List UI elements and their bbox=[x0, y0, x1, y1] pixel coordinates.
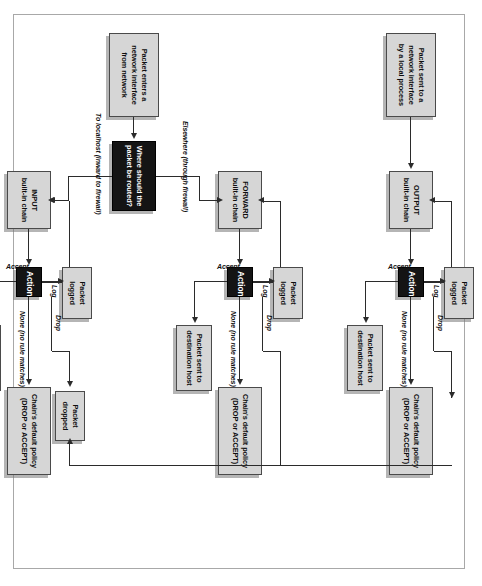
route-localhost-line2: (inward to firewall) bbox=[95, 155, 102, 215]
edge-input-source-to-decision bbox=[133, 117, 134, 133]
forward-action-label: Action bbox=[234, 271, 245, 293]
packet-dropped-line1: Packet bbox=[70, 395, 80, 437]
input-source-line2: network interface bbox=[129, 37, 139, 113]
node-forward-dest: Packet sent to destination host bbox=[176, 325, 212, 391]
arrowhead-output-drop bbox=[449, 392, 455, 398]
edge-forward-chain-to-action bbox=[239, 229, 240, 259]
output-none-line3: matches) bbox=[401, 357, 408, 387]
output-logged-line1: Packet bbox=[459, 271, 469, 315]
arrowhead-output-log bbox=[429, 197, 435, 203]
arrowhead-route-elsewhere bbox=[217, 197, 223, 203]
node-output-logged: Packet logged bbox=[444, 267, 474, 319]
label-output-none: None (no rule matches) bbox=[399, 311, 408, 387]
forward-dest-line2: destination host bbox=[184, 329, 194, 387]
output-chain-line2: built-in chain bbox=[401, 175, 411, 225]
label-forward-accept: Accept bbox=[217, 263, 240, 272]
output-source-line3: by a local process bbox=[396, 37, 406, 113]
label-route-localhost: To localhost (inward to firewall) bbox=[93, 113, 102, 214]
node-input-local: Packet sent to local process bbox=[0, 325, 1, 391]
output-action-label: Action bbox=[405, 271, 416, 293]
figure-frame: Packet sent to a network interface by a … bbox=[13, 14, 465, 569]
route-elsewhere-line2: (through firewall) bbox=[182, 157, 189, 212]
output-dest-line1: Packet sent to bbox=[365, 329, 375, 387]
label-output-accept: Accept bbox=[388, 263, 411, 272]
forward-chain-line2: built-in chain bbox=[230, 175, 240, 225]
arrowhead-forward-none bbox=[238, 379, 244, 385]
node-forward-logged: Packet logged bbox=[273, 267, 303, 319]
input-none-line3: matches) bbox=[19, 357, 26, 387]
edge-route-localhost-h bbox=[68, 176, 69, 200]
input-none-line2: (no rule bbox=[19, 330, 26, 355]
label-output-drop: Drop bbox=[435, 315, 444, 331]
node-output-chain: OUTPUT built-in chain bbox=[389, 171, 433, 229]
label-input-none: None (no rule matches) bbox=[17, 311, 26, 387]
edge-forward-drop-h2 bbox=[280, 351, 281, 399]
input-logged-line1: Packet bbox=[77, 271, 87, 315]
input-policy-line1: Chain's default policy bbox=[29, 391, 39, 471]
edge-input-drop-h2 bbox=[69, 351, 70, 383]
edge-output-drop-h1 bbox=[433, 297, 434, 351]
node-input-logged: Packet logged bbox=[62, 267, 92, 319]
label-forward-log: Log bbox=[260, 285, 269, 298]
label-forward-drop: Drop bbox=[264, 315, 273, 331]
arrowhead-output-logged bbox=[440, 278, 446, 284]
label-input-accept: Accept bbox=[6, 263, 29, 272]
edge-route-localhost-v bbox=[68, 176, 112, 177]
edge-output-none bbox=[410, 297, 411, 379]
arrowhead-forward-logged bbox=[269, 278, 275, 284]
input-source-line3: from network bbox=[119, 37, 129, 113]
flowchart-canvas: Packet sent to a network interface by a … bbox=[14, 15, 466, 570]
edge-forward-accept-h bbox=[194, 281, 195, 317]
arrowhead-input-log bbox=[49, 197, 55, 203]
node-forward-chain: FORWARD built-in chain bbox=[218, 171, 262, 229]
edge-input-chain-to-action bbox=[28, 229, 29, 259]
node-input-policy: Chain's default policy (DROP or ACCEPT) bbox=[7, 387, 51, 475]
edge-drop-spine bbox=[70, 465, 452, 466]
input-chain-line2: built-in chain bbox=[19, 175, 29, 225]
edge-input-none bbox=[28, 297, 29, 379]
forward-chain-line1: FORWARD bbox=[240, 175, 250, 225]
edge-route-elsewhere-v bbox=[156, 176, 200, 177]
arrowhead-input-drop bbox=[67, 381, 73, 387]
arrowhead-forward-accept bbox=[192, 317, 198, 323]
figure-page: Packet sent to a network interface by a … bbox=[0, 0, 482, 586]
forward-none-line1: None bbox=[230, 311, 237, 328]
route-localhost-line1: To localhost bbox=[95, 113, 102, 153]
edge-output-drop-h2 bbox=[451, 351, 452, 398]
arrowhead-output-none bbox=[409, 379, 415, 385]
input-chain-line1: INPUT bbox=[29, 175, 39, 225]
edge-route-elsewhere-up bbox=[199, 200, 218, 201]
output-source-line1: Packet sent to a bbox=[416, 37, 426, 113]
packet-dropped-line2: dropped bbox=[60, 395, 70, 437]
forward-policy-line2: (DROP or ACCEPT) bbox=[230, 391, 240, 471]
edge-output-accept-v bbox=[365, 281, 398, 282]
edge-forward-drop-h1 bbox=[262, 297, 263, 351]
input-action-label: Action bbox=[23, 271, 34, 293]
forward-logged-line1: Packet bbox=[288, 271, 298, 315]
output-policy-line1: Chain's default policy bbox=[411, 391, 421, 471]
edge-route-localhost-down bbox=[53, 200, 69, 201]
input-none-line1: None bbox=[19, 311, 26, 328]
output-logged-line2: logged bbox=[449, 271, 459, 315]
label-input-drop: Drop bbox=[53, 315, 62, 331]
forward-dest-line1: Packet sent to bbox=[194, 329, 204, 387]
input-policy-line2: (DROP or ACCEPT) bbox=[19, 391, 29, 471]
node-input-chain: INPUT built-in chain bbox=[7, 171, 51, 229]
edge-output-source-to-chain bbox=[410, 117, 411, 163]
edge-forward-accept-v bbox=[194, 281, 227, 282]
input-logged-line2: logged bbox=[67, 271, 77, 315]
edge-forward-none bbox=[239, 297, 240, 379]
edge-route-elsewhere-h bbox=[199, 176, 200, 200]
arrowhead-drop-spine bbox=[67, 438, 73, 444]
forward-none-line2: (no rule bbox=[230, 330, 237, 355]
output-chain-line1: OUTPUT bbox=[411, 175, 421, 225]
forward-policy-line1: Chain's default policy bbox=[240, 391, 250, 471]
edge-input-drop-h1 bbox=[51, 297, 52, 351]
node-output-policy: Chain's default policy (DROP or ACCEPT) bbox=[389, 387, 433, 475]
route-elsewhere-line1: Elsewhere bbox=[182, 121, 189, 155]
node-output-dest: Packet sent to destination host bbox=[347, 325, 383, 391]
node-output-source: Packet sent to a network interface by a … bbox=[386, 33, 436, 117]
arrowhead-input-source-to-decision bbox=[132, 133, 138, 139]
arrowhead-forward-log bbox=[258, 197, 264, 203]
arrowhead-output-source-to-chain bbox=[409, 163, 415, 169]
